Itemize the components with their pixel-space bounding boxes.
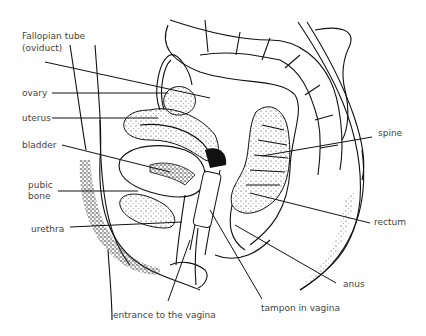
anatomy-diagram: Fallopian tube (oviduct) ovary uterus bl… (0, 0, 426, 336)
label-anus: anus (343, 279, 365, 290)
label-fallopian-tube: Fallopian tube (22, 31, 85, 42)
rectum (231, 107, 290, 213)
label-tampon-in-vagina: tampon in vagina (261, 303, 340, 314)
urethra (176, 195, 185, 265)
cervix (205, 148, 226, 168)
uterus (124, 109, 219, 161)
bladder-wall (150, 163, 195, 185)
label-uterus: uterus (22, 113, 51, 124)
abdomen-outline (70, 45, 86, 150)
labia (170, 262, 207, 288)
label-rectum: rectum (374, 217, 406, 228)
tampon (193, 171, 222, 229)
tampon-string (195, 228, 198, 285)
thigh-outline (108, 250, 112, 320)
label-ovary: ovary (22, 88, 47, 99)
leader-entrance (168, 240, 190, 301)
buttock-outline (300, 150, 364, 290)
label-spine: spine (378, 128, 402, 139)
label-pubic: pubic (28, 180, 53, 191)
back-outline-outer (298, 22, 360, 290)
label-bladder: bladder (22, 140, 56, 151)
leader-tampon (210, 210, 262, 299)
perineum (215, 240, 270, 258)
label-urethra: urethra (31, 224, 64, 235)
label-bone: bone (28, 191, 50, 202)
label-oviduct: (oviduct) (22, 43, 62, 54)
buttock-shading (300, 190, 355, 290)
label-entrance-to-vagina: entrance to the vagina (113, 310, 216, 321)
back-outline-inner (307, 22, 364, 180)
leader-bladder (62, 145, 170, 172)
